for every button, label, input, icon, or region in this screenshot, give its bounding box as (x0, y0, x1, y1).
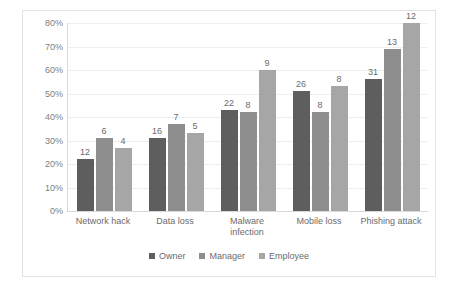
legend-swatch-icon (199, 253, 205, 259)
bar-slot: 22 (221, 23, 238, 211)
bar-slot: 12 (403, 23, 420, 211)
bar-data-label: 5 (192, 121, 197, 131)
bar-manager[interactable]: 13 (384, 49, 401, 211)
bar-data-label: 9 (264, 58, 269, 68)
plot-wrapper: 0%10%20%30%40%50%60%70%80% 1264167522892… (23, 11, 435, 276)
bar-employee[interactable]: 4 (115, 148, 132, 211)
bar-data-label: 6 (101, 126, 106, 136)
y-axis-tick-label: 10% (29, 183, 63, 193)
bar-group: 2289 (212, 23, 284, 211)
bar-data-label: 4 (120, 136, 125, 146)
x-axis-label-line: Phishing attack (355, 216, 427, 227)
y-axis-tick-label: 30% (29, 136, 63, 146)
bar-owner[interactable]: 22 (221, 110, 238, 211)
x-axis-label: Network hack (67, 214, 139, 248)
chart-container: 0%10%20%30%40%50%60%70%80% 1264167522892… (22, 10, 436, 277)
bar-slot: 13 (384, 23, 401, 211)
bar-slot: 8 (331, 23, 348, 211)
bar-slot: 12 (77, 23, 94, 211)
bar-slot: 31 (365, 23, 382, 211)
bar-group: 1264 (68, 23, 140, 211)
bar-owner[interactable]: 16 (149, 138, 166, 211)
bar-slot: 9 (259, 23, 276, 211)
bar-owner[interactable]: 26 (293, 91, 310, 211)
bar-group: 2688 (284, 23, 356, 211)
x-axis-category-labels: Network hackData lossMalwareinfectionMob… (67, 214, 427, 248)
y-axis-tick-label: 0% (29, 206, 63, 216)
bar-slot: 8 (240, 23, 257, 211)
bar-data-label: 8 (317, 100, 322, 110)
plot-area: 1264167522892688311312 (67, 23, 428, 212)
bar-group: 311312 (356, 23, 428, 211)
bars-layer: 1264167522892688311312 (68, 23, 428, 211)
bar-data-label: 12 (406, 11, 416, 21)
bar-employee[interactable]: 8 (331, 86, 348, 211)
y-axis-tick-label: 50% (29, 89, 63, 99)
bar-manager[interactable]: 8 (312, 112, 329, 211)
legend-label: Employee (269, 251, 309, 261)
y-axis-tick-label: 60% (29, 65, 63, 75)
x-axis-label: Data loss (139, 214, 211, 248)
bar-manager[interactable]: 6 (96, 138, 113, 211)
legend-label: Manager (209, 251, 245, 261)
bar-owner[interactable]: 12 (77, 159, 94, 211)
bar-slot: 4 (115, 23, 132, 211)
bar-owner[interactable]: 31 (365, 79, 382, 211)
x-axis-label-line: Data loss (139, 216, 211, 227)
x-axis-label: Mobile loss (283, 214, 355, 248)
bar-data-label: 8 (336, 74, 341, 84)
bar-data-label: 8 (245, 100, 250, 110)
bar-slot: 26 (293, 23, 310, 211)
x-axis-label-line: infection (211, 227, 283, 238)
bar-employee[interactable]: 9 (259, 70, 276, 211)
bar-data-label: 13 (387, 37, 397, 47)
bar-slot: 5 (187, 23, 204, 211)
legend-item-manager[interactable]: Manager (199, 251, 245, 261)
x-axis-label: Malwareinfection (211, 214, 283, 248)
legend-swatch-icon (259, 253, 265, 259)
bar-manager[interactable]: 7 (168, 124, 185, 211)
bar-employee[interactable]: 12 (403, 23, 420, 211)
y-axis: 0%10%20%30%40%50%60%70%80% (29, 23, 63, 211)
bar-data-label: 12 (80, 147, 90, 157)
legend-item-owner[interactable]: Owner (149, 251, 186, 261)
x-axis-label-line: Mobile loss (283, 216, 355, 227)
bar-employee[interactable]: 5 (187, 133, 204, 211)
bar-data-label: 22 (224, 98, 234, 108)
bar-data-label: 7 (173, 112, 178, 122)
bar-manager[interactable]: 8 (240, 112, 257, 211)
y-axis-tick-label: 70% (29, 42, 63, 52)
legend-label: Owner (159, 251, 186, 261)
bar-data-label: 16 (152, 126, 162, 136)
bar-data-label: 31 (368, 67, 378, 77)
chart-legend: OwnerManagerEmployee (23, 251, 435, 261)
bar-slot: 6 (96, 23, 113, 211)
y-axis-tick-label: 20% (29, 159, 63, 169)
y-axis-tick-label: 80% (29, 18, 63, 28)
x-axis-label-line: Network hack (67, 216, 139, 227)
bar-slot: 7 (168, 23, 185, 211)
bar-slot: 8 (312, 23, 329, 211)
y-axis-tick-label: 40% (29, 112, 63, 122)
x-axis-label-line: Malware (211, 216, 283, 227)
legend-swatch-icon (149, 253, 155, 259)
bar-data-label: 26 (296, 79, 306, 89)
bar-group: 1675 (140, 23, 212, 211)
x-axis-label: Phishing attack (355, 214, 427, 248)
legend-item-employee[interactable]: Employee (259, 251, 309, 261)
bar-slot: 16 (149, 23, 166, 211)
